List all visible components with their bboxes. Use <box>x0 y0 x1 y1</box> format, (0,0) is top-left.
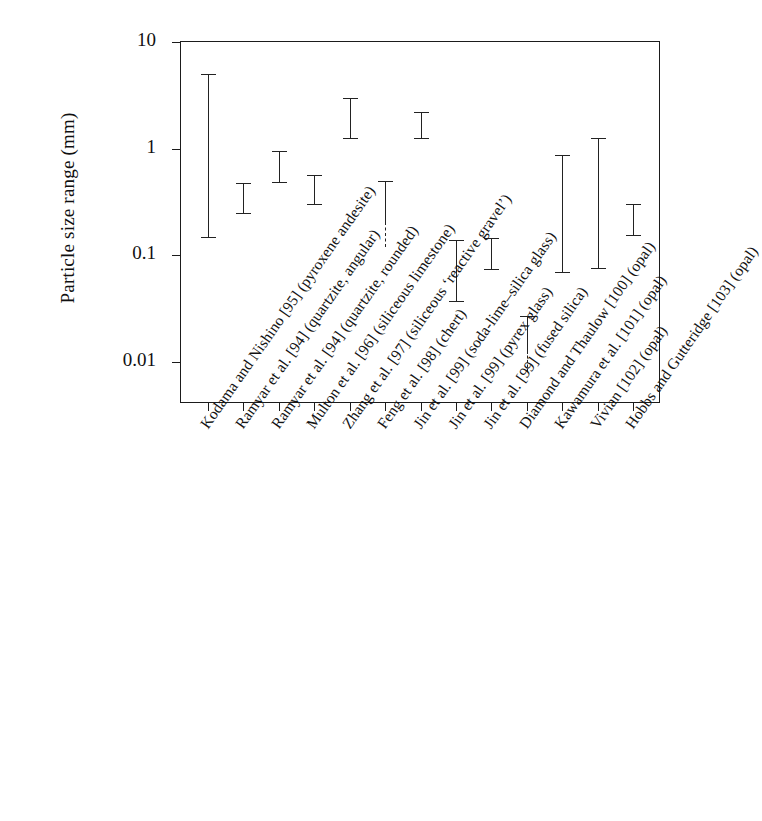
range-bar-lower-cap <box>414 138 429 139</box>
range-bar-lower-cap <box>201 237 216 238</box>
range-bar-stem <box>598 138 599 267</box>
y-axis-tick <box>172 42 180 43</box>
range-bar-lower-cap <box>307 204 322 205</box>
range-bar-stem <box>633 204 634 235</box>
range-bar-stem-dashed <box>385 222 386 247</box>
y-axis-tick-label: 10 <box>0 29 168 51</box>
range-bar-lower-cap <box>449 301 464 302</box>
range-bar-lower-cap <box>236 213 251 214</box>
range-bar-lower-cap <box>591 268 606 269</box>
y-axis-tick <box>172 362 180 363</box>
range-bar-stem <box>491 238 492 269</box>
range-bar-lower-cap <box>555 272 570 273</box>
range-bar-lower-cap <box>343 138 358 139</box>
y-axis-tick-label: 0.1 <box>0 242 168 264</box>
y-axis-title: Particle size range (mm) <box>57 78 79 338</box>
range-bar-lower-cap <box>626 235 641 236</box>
y-axis-tick <box>172 149 180 150</box>
range-bar-stem <box>279 151 280 182</box>
range-bar-stem <box>562 155 563 272</box>
range-bar-stem <box>421 112 422 138</box>
y-axis-tick-label: 0.01 <box>0 349 168 371</box>
range-bar-lower-cap <box>272 182 287 183</box>
range-bar-stem <box>385 181 386 222</box>
range-bar-stem <box>314 175 315 205</box>
y-axis-tick <box>172 255 180 256</box>
y-axis-tick-label: 1 <box>0 136 168 158</box>
range-bar-stem <box>243 183 244 213</box>
range-bar-stem <box>350 98 351 139</box>
range-bar-lower-cap <box>484 269 499 270</box>
range-bar-stem <box>208 74 209 236</box>
